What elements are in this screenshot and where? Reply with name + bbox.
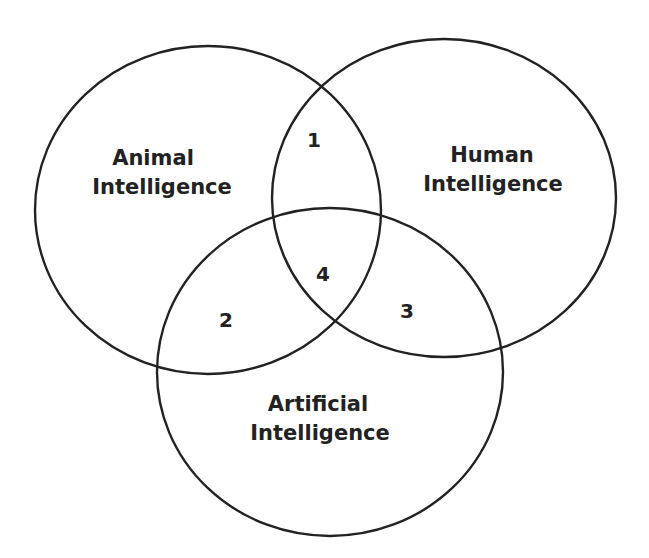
region-1-label: 1 [307,128,321,152]
region-4-label: 4 [316,262,330,286]
venn-diagram: Animal Intelligence Human Intelligence A… [0,0,649,558]
region-3-label: 3 [400,299,414,323]
human-label-line1: Human [450,143,534,167]
artificial-intelligence-circle [157,208,503,536]
animal-label-line1: Animal [112,146,194,170]
animal-label-line2: Intelligence [92,175,232,199]
human-label-line2: Intelligence [423,172,563,196]
artificial-label-line1: Artificial [268,392,368,416]
animal-intelligence-circle [35,46,381,374]
artificial-label-line2: Intelligence [250,421,390,445]
region-2-label: 2 [219,308,233,332]
